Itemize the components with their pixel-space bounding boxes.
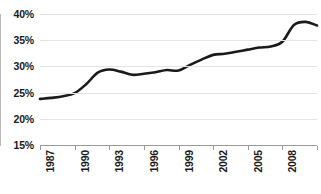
x-tick-label: 1996	[148, 150, 160, 173]
x-tick-label: 1999	[183, 150, 195, 173]
x-tick-mark	[179, 146, 180, 150]
gridline	[40, 119, 317, 120]
x-tick-label: 1987	[44, 150, 56, 173]
gridline	[40, 66, 317, 67]
x-tick-mark	[317, 146, 318, 150]
gridline	[40, 14, 317, 15]
y-tick-label: 35%	[14, 34, 34, 46]
x-tick-mark	[109, 146, 110, 150]
x-tick-mark	[248, 146, 249, 150]
plot-area	[40, 14, 317, 145]
x-tick-mark	[282, 146, 283, 150]
y-tick-label: 20%	[14, 113, 34, 125]
gridline	[40, 40, 317, 41]
gridline	[40, 93, 317, 94]
x-tick-mark	[213, 146, 214, 150]
y-tick-label: 30%	[14, 60, 34, 72]
x-tick-mark	[144, 146, 145, 150]
x-tick-label: 1990	[79, 150, 91, 173]
series-line	[40, 14, 317, 145]
y-axis: 40%35%30%25%20%15%	[0, 0, 38, 160]
y-tick-label: 40%	[14, 8, 34, 20]
x-axis: 198719901993199619992002200520082011	[40, 150, 317, 194]
x-tick-mark	[40, 146, 41, 150]
line-chart: 40%35%30%25%20%15% 198719901993199619992…	[0, 0, 321, 194]
y-tick-label: 15%	[14, 139, 34, 151]
data-line	[40, 22, 317, 99]
y-tick-label: 25%	[14, 87, 34, 99]
y-axis-line	[0, 14, 1, 146]
x-tick-mark	[75, 146, 76, 150]
x-tick-label: 2008	[286, 150, 298, 173]
x-tick-label: 2002	[217, 150, 229, 173]
x-tick-label: 1993	[113, 150, 125, 173]
x-tick-label: 2005	[252, 150, 264, 173]
